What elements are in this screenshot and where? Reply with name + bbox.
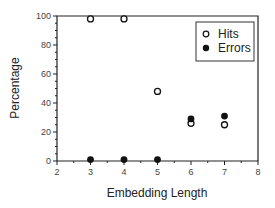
x-tick-label: 8 [255,167,260,177]
hits-point [222,122,228,128]
y-tick-label: 0 [46,156,51,166]
x-tick-label: 6 [188,167,193,177]
hits-legend-icon [203,31,209,37]
x-tick-label: 7 [222,167,227,177]
x-tick-label: 4 [121,167,126,177]
scatter-chart: 2345678020406080100 Embedding Length Per… [0,0,275,208]
errors-legend-icon [203,45,209,51]
hits-point [121,16,127,22]
errors-point [221,113,228,120]
y-tick-label: 80 [41,40,51,50]
x-tick-label: 5 [155,167,160,177]
legend-hits-label: Hits [218,27,239,41]
y-tick-label: 20 [41,127,51,137]
y-tick-label: 60 [41,69,51,79]
errors-point [87,156,94,163]
x-axis-label: Embedding Length [107,186,208,200]
legend: Hits Errors [196,22,254,61]
y-tick-label: 100 [36,11,51,21]
hits-point [88,16,94,22]
legend-errors-label: Errors [218,41,251,55]
y-tick-label: 40 [41,98,51,108]
errors-point [154,156,161,163]
errors-point [121,156,128,163]
errors-point [188,116,195,123]
x-tick-label: 3 [88,167,93,177]
x-tick-label: 2 [54,167,59,177]
hits-point [155,88,161,94]
y-axis-label: Percentage [8,57,22,119]
